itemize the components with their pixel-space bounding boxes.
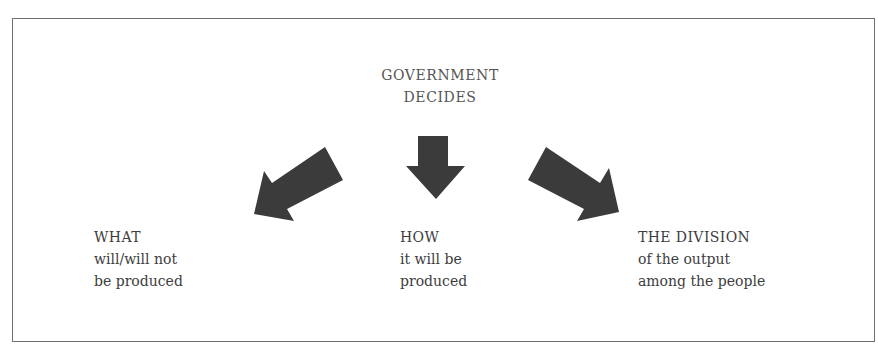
outcome-how-heading: HOW bbox=[400, 226, 467, 248]
arrows-layer bbox=[0, 0, 878, 355]
outcome-what-line-2: be produced bbox=[94, 270, 183, 292]
outcome-what: WHAT will/will not be produced bbox=[94, 226, 183, 292]
arrow-down-icon bbox=[406, 136, 465, 199]
outcome-how: HOW it will be produced bbox=[400, 226, 467, 292]
outcome-division-line-1: of the output bbox=[638, 248, 765, 270]
outcome-division-heading: THE DIVISION bbox=[638, 226, 765, 248]
outcome-how-line-2: produced bbox=[400, 270, 467, 292]
arrow-down-right-icon bbox=[528, 147, 619, 221]
arrow-down-left-icon bbox=[254, 147, 343, 221]
outcome-what-heading: WHAT bbox=[94, 226, 183, 248]
outcome-what-line-1: will/will not bbox=[94, 248, 183, 270]
outcome-division-line-2: among the people bbox=[638, 270, 765, 292]
outcome-how-line-1: it will be bbox=[400, 248, 467, 270]
outcome-division: THE DIVISION of the output among the peo… bbox=[638, 226, 765, 292]
